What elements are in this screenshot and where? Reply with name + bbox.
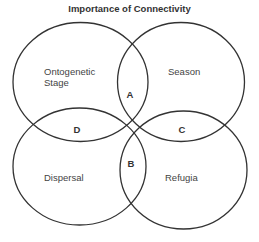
intersection-label-b: B	[128, 158, 135, 169]
set-label-ontogenetic-stage: Ontogenetic Stage	[44, 66, 95, 88]
set-label-dispersal: Dispersal	[44, 172, 84, 183]
set-label-season: Season	[168, 66, 200, 77]
venn-diagram	[0, 0, 259, 242]
set-label-line2: Stage	[44, 77, 95, 88]
intersection-label-d: D	[74, 124, 81, 135]
set-label-line1: Ontogenetic	[44, 66, 95, 77]
intersection-label-c: C	[179, 124, 186, 135]
set-label-refugia: Refugia	[165, 172, 198, 183]
intersection-label-a: A	[127, 89, 134, 100]
